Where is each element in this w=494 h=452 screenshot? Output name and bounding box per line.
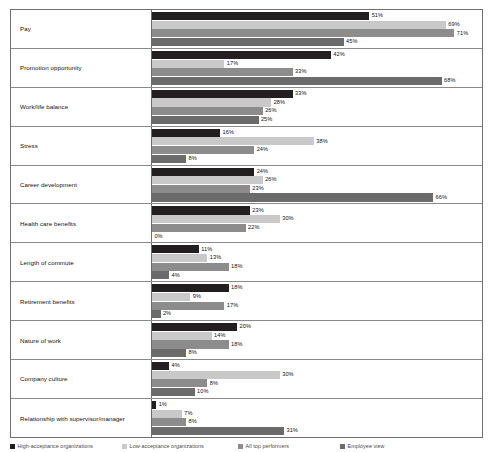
legend-label: High-acceptance organizations xyxy=(18,444,93,449)
row-label-cell: Relationship with supervisor/manager xyxy=(11,399,152,438)
row-bars-cell: 24%26%23%66% xyxy=(152,166,482,204)
bar-segment xyxy=(152,401,156,409)
legend-item[interactable]: All top performers xyxy=(238,444,289,449)
bar-line: 45% xyxy=(152,38,482,46)
bar-line: 71% xyxy=(152,29,482,37)
bar-segment xyxy=(152,21,446,29)
bar-segment xyxy=(152,107,263,115)
bar-value-label: 18% xyxy=(231,342,243,348)
bar-segment xyxy=(152,245,199,253)
bar-line: 4% xyxy=(152,362,482,370)
bar-segment xyxy=(152,224,246,232)
bar-line: 14% xyxy=(152,332,482,340)
horizontal-bar-chart: Pay51%69%71%45%Promotion opportunity42%1… xyxy=(0,0,494,452)
bar-value-label: 25% xyxy=(261,117,273,123)
bar-segment xyxy=(152,68,293,76)
bar-line: 69% xyxy=(152,21,482,29)
bar-line: 2% xyxy=(152,310,482,318)
bar-value-label: 7% xyxy=(184,411,192,417)
bar-segment xyxy=(152,332,212,340)
bar-value-label: 23% xyxy=(252,208,264,214)
bar-value-label: 8% xyxy=(188,156,196,162)
bar-line: 25% xyxy=(152,116,482,124)
bar-value-label: 38% xyxy=(316,139,328,145)
bar-line: 10% xyxy=(152,388,482,396)
legend-item[interactable]: Low-acceptance organizations xyxy=(122,444,204,449)
bar-value-label: 23% xyxy=(252,186,264,192)
bar-value-label: 33% xyxy=(295,91,307,97)
legend-label: All top performers xyxy=(246,444,289,449)
bar-value-label: 33% xyxy=(295,69,307,75)
row-bars-cell: 16%38%24%8% xyxy=(152,127,482,165)
bar-value-label: 8% xyxy=(210,381,218,387)
row-label: Length of commute xyxy=(20,259,74,266)
bar-line: 42% xyxy=(152,51,482,59)
bar-segment xyxy=(152,206,250,214)
bar-value-label: 2% xyxy=(163,311,171,317)
bar-line: 9% xyxy=(152,293,482,301)
chart-row: Health care benefits23%30%22%0% xyxy=(11,204,482,243)
bar-segment xyxy=(152,146,254,154)
row-label-cell: Nature of work xyxy=(11,321,152,359)
bar-segment xyxy=(152,379,207,387)
bar-line: 13% xyxy=(152,254,482,262)
bar-segment xyxy=(152,116,259,124)
bar-segment xyxy=(152,168,254,176)
bar-line: 26% xyxy=(152,107,482,115)
chart-row: Career development24%26%23%66% xyxy=(11,166,482,205)
bar-value-label: 30% xyxy=(282,216,294,222)
bar-value-label: 18% xyxy=(231,285,243,291)
bar-segment xyxy=(152,193,433,201)
bar-segment xyxy=(152,176,263,184)
bar-line: 4% xyxy=(152,271,482,279)
bar-value-label: 45% xyxy=(346,39,358,45)
bar-line: 33% xyxy=(152,68,482,76)
row-bars-cell: 1%7%8%31% xyxy=(152,399,482,438)
bar-segment xyxy=(152,77,442,85)
row-label: Work/life balance xyxy=(20,103,68,110)
bar-value-label: 17% xyxy=(227,61,239,67)
bar-segment xyxy=(152,323,237,331)
row-label: Career development xyxy=(20,181,77,188)
bar-segment xyxy=(152,427,284,435)
bar-segment xyxy=(152,310,161,318)
bar-line: 30% xyxy=(152,215,482,223)
row-label-cell: Health care benefits xyxy=(11,204,152,242)
legend-swatch-icon xyxy=(238,444,243,449)
bar-value-label: 24% xyxy=(257,169,269,175)
bar-line: 11% xyxy=(152,245,482,253)
chart-row: Pay51%69%71%45% xyxy=(11,10,482,49)
bar-segment xyxy=(152,185,250,193)
legend-item[interactable]: Employee view xyxy=(340,444,384,449)
row-label-cell: Length of commute xyxy=(11,243,152,281)
bar-value-label: 26% xyxy=(265,108,277,114)
row-bars-cell: 23%30%22%0% xyxy=(152,204,482,242)
bar-line: 1% xyxy=(152,401,482,409)
bar-line: 0% xyxy=(152,232,482,240)
legend-item[interactable]: High-acceptance organizations xyxy=(10,444,93,449)
row-bars-cell: 18%9%17%2% xyxy=(152,282,482,320)
row-bars-cell: 42%17%33%68% xyxy=(152,49,482,87)
bar-value-label: 24% xyxy=(257,147,269,153)
chart-row: Nature of work20%14%18%8% xyxy=(11,321,482,360)
bar-value-label: 9% xyxy=(193,294,201,300)
bar-segment xyxy=(152,371,280,379)
row-bars-cell: 11%13%18%4% xyxy=(152,243,482,281)
bar-segment xyxy=(152,284,229,292)
chart-row: Stress16%38%24%8% xyxy=(11,127,482,166)
row-label: Nature of work xyxy=(20,337,61,344)
bar-line: 22% xyxy=(152,224,482,232)
bar-segment xyxy=(152,293,190,301)
row-bars-cell: 4%30%8%10% xyxy=(152,360,482,398)
bar-segment xyxy=(152,418,186,426)
row-label: Pay xyxy=(20,25,31,32)
bar-line: 7% xyxy=(152,410,482,418)
bar-segment xyxy=(152,263,229,271)
bar-segment xyxy=(152,98,271,106)
bar-value-label: 4% xyxy=(171,273,179,279)
bar-line: 17% xyxy=(152,60,482,68)
row-label-cell: Pay xyxy=(11,10,152,48)
bar-value-label: 10% xyxy=(197,389,209,395)
bar-line: 23% xyxy=(152,206,482,214)
bar-value-label: 13% xyxy=(210,255,222,261)
